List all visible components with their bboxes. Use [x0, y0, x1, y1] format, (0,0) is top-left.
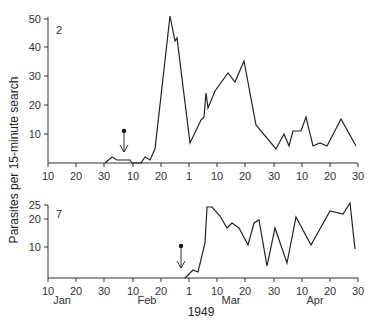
bottom-series-line	[185, 203, 355, 278]
top-y-ticks: 1020304050	[29, 13, 48, 140]
month-label: Feb	[138, 294, 157, 306]
bottom-panel: 7 102025 10203010201102030102030	[29, 199, 364, 297]
x-tick-label: 30	[352, 285, 364, 297]
x-axis-year-label: 1949	[188, 305, 215, 319]
bottom-y-ticks: 102025	[29, 199, 48, 253]
y-axis-label: Parasites per 15-minute search	[7, 77, 21, 244]
x-tick-label: 30	[352, 170, 364, 182]
x-tick-label: 30	[98, 170, 110, 182]
x-tick-label: 20	[155, 285, 167, 297]
top-series-line	[105, 16, 356, 163]
x-tick-label: 30	[98, 285, 110, 297]
month-label: Jan	[53, 294, 71, 306]
bottom-panel-label: 7	[56, 208, 62, 220]
chart-canvas: Parasites per 15-minute search 2 1020304…	[0, 0, 376, 335]
x-tick-label: 10	[127, 170, 139, 182]
x-tick-label: 20	[239, 170, 251, 182]
y-tick-label: 20	[29, 99, 41, 111]
y-tick-label: 10	[29, 241, 41, 253]
x-tick-label: 10	[211, 170, 223, 182]
x-tick-label: 20	[324, 285, 336, 297]
x-tick-label: 30	[268, 285, 280, 297]
month-label: Mar	[222, 294, 241, 306]
y-tick-label: 25	[29, 199, 41, 211]
top-panel-label: 2	[56, 24, 62, 36]
release-arrow-icon	[120, 129, 128, 152]
release-arrow-icon	[177, 244, 185, 268]
x-tick-label: 1	[186, 285, 192, 297]
y-tick-label: 40	[29, 41, 41, 53]
x-tick-label: 10	[42, 170, 54, 182]
y-tick-label: 10	[29, 128, 41, 140]
month-label: Apr	[306, 294, 323, 306]
x-tick-label: 20	[324, 170, 336, 182]
x-tick-label: 10	[296, 170, 308, 182]
y-tick-label: 50	[29, 13, 41, 25]
x-tick-label: 1	[186, 170, 192, 182]
top-x-ticks: 10203010201102030102030	[42, 163, 364, 182]
x-tick-label: 20	[239, 285, 251, 297]
y-tick-label: 30	[29, 70, 41, 82]
x-tick-label: 30	[268, 170, 280, 182]
x-tick-label: 20	[155, 170, 167, 182]
top-panel: 2 1020304050 10203010201102030102030	[29, 13, 364, 182]
y-tick-label: 20	[29, 213, 41, 225]
x-tick-label: 20	[70, 170, 82, 182]
x-tick-label: 20	[70, 285, 82, 297]
